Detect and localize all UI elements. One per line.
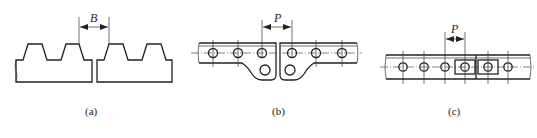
dim-label-p: P — [273, 11, 282, 25]
panel-a: B (a) — [15, 11, 172, 118]
dim-label-p: P — [450, 22, 459, 36]
panel-c: P (c) — [380, 22, 535, 118]
caption-a: (a) — [85, 105, 98, 118]
belt-left-piece — [16, 44, 92, 82]
caption-b: (b) — [272, 105, 285, 118]
lug-hole-right — [285, 65, 295, 75]
belt-right-piece — [97, 44, 172, 82]
panel-b: P (b) — [191, 11, 362, 118]
lug-hole-left — [260, 65, 270, 75]
figure-canvas: B (a) — [0, 0, 537, 138]
dim-label-b: B — [90, 11, 98, 25]
caption-c: (c) — [448, 105, 461, 118]
